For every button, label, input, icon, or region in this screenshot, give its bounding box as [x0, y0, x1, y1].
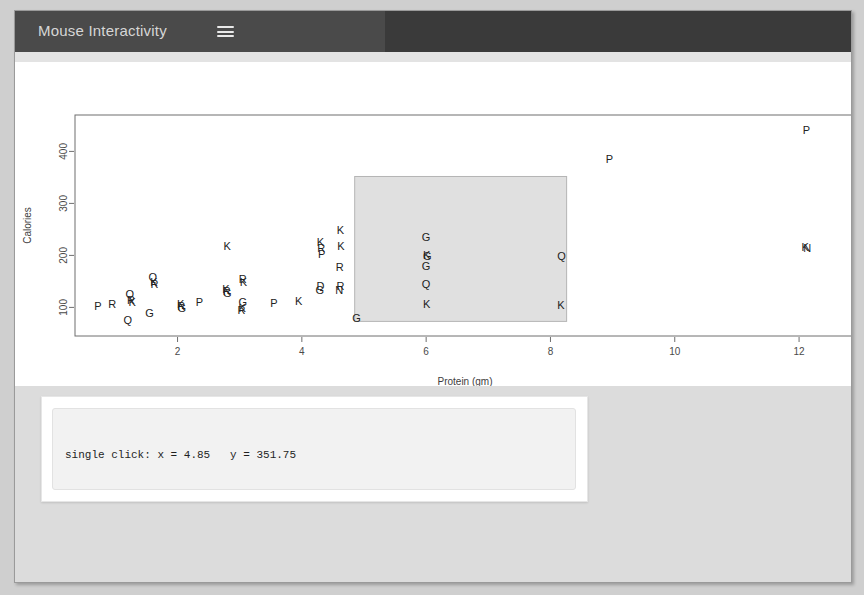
- data-point-label[interactable]: K: [423, 298, 431, 310]
- data-point-label[interactable]: P: [270, 297, 277, 309]
- navbar-brand-title[interactable]: Mouse Interactivity: [38, 22, 167, 39]
- x-axis-title: Protein (gm): [437, 376, 492, 386]
- data-point-label[interactable]: P: [196, 296, 203, 308]
- data-point-label[interactable]: G: [316, 284, 325, 296]
- x-tick-label: 12: [794, 346, 806, 357]
- data-point-label[interactable]: G: [223, 287, 232, 299]
- x-tick-label: 2: [175, 346, 181, 357]
- data-point-label[interactable]: N: [803, 242, 811, 254]
- data-point-label[interactable]: G: [422, 231, 431, 243]
- data-point-label[interactable]: P: [94, 300, 101, 312]
- output-line-single-click: single click: x = 4.85 y = 351.75: [65, 448, 563, 463]
- y-axis-title: Calories: [22, 207, 33, 244]
- navbar-underline-strip: [15, 52, 851, 62]
- data-point-label[interactable]: K: [224, 240, 232, 252]
- data-point-label[interactable]: G: [145, 307, 154, 319]
- browser-page-frame: Mouse Interactivity 24681012100200300400…: [14, 10, 852, 583]
- hamburger-bar-1: [217, 26, 234, 28]
- data-point-label[interactable]: G: [422, 260, 431, 272]
- y-tick-label: 200: [58, 247, 69, 264]
- data-point-label[interactable]: G: [178, 302, 187, 314]
- mouse-output-verbatim: single click: x = 4.85 y = 351.75 double…: [52, 408, 576, 490]
- data-point-label[interactable]: Q: [124, 314, 133, 326]
- data-point-label[interactable]: K: [337, 240, 345, 252]
- data-point-label[interactable]: P: [606, 153, 613, 165]
- data-point-label[interactable]: R: [108, 298, 116, 310]
- data-point-label[interactable]: K: [337, 224, 345, 236]
- plot-card: 24681012100200300400Protein (gm)Calories…: [15, 62, 851, 386]
- x-tick-label: 4: [299, 346, 305, 357]
- data-point-label[interactable]: Q: [422, 278, 431, 290]
- hamburger-bar-3: [217, 35, 234, 37]
- data-point-label[interactable]: G: [352, 312, 361, 324]
- data-point-label[interactable]: K: [295, 295, 303, 307]
- x-tick-label: 6: [423, 346, 429, 357]
- data-point-label[interactable]: R: [336, 261, 344, 273]
- hamburger-bar-2: [217, 31, 234, 33]
- scatter-plot[interactable]: 24681012100200300400Protein (gm)Calories…: [15, 62, 851, 386]
- data-point-label[interactable]: K: [557, 299, 565, 311]
- x-tick-label: 8: [548, 346, 554, 357]
- y-tick-label: 300: [58, 195, 69, 212]
- data-point-label[interactable]: P: [318, 248, 325, 260]
- hamburger-menu-icon[interactable]: [217, 24, 234, 39]
- data-point-label[interactable]: R: [238, 304, 246, 316]
- y-tick-label: 400: [58, 143, 69, 160]
- data-point-label[interactable]: N: [335, 284, 343, 296]
- data-point-label[interactable]: K: [129, 296, 137, 308]
- data-point-label[interactable]: R: [151, 278, 159, 290]
- brush-selection-rect[interactable]: [355, 176, 567, 321]
- y-tick-label: 100: [58, 299, 69, 316]
- data-point-label[interactable]: P: [803, 124, 810, 136]
- data-point-label[interactable]: K: [240, 276, 248, 288]
- x-tick-label: 10: [669, 346, 681, 357]
- mouse-output-card: single click: x = 4.85 y = 351.75 double…: [41, 396, 588, 502]
- data-point-label[interactable]: Q: [557, 250, 566, 262]
- navbar: Mouse Interactivity: [15, 11, 851, 52]
